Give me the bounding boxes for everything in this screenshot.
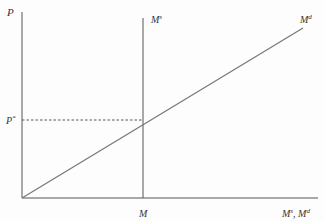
- p-star-label: P*: [5, 114, 16, 126]
- x-axis-label: Ms, Md: [281, 207, 310, 219]
- supply-label: Ms: [150, 13, 162, 25]
- money-market-chart: P Ms Md P* M Ms, Md: [0, 0, 324, 221]
- y-axis-label: P: [6, 6, 14, 18]
- money-demand-line: [22, 28, 303, 198]
- chart-svg: P Ms Md P* M Ms, Md: [0, 0, 324, 221]
- demand-label: Md: [299, 13, 312, 25]
- m-tick-label: M: [138, 208, 148, 219]
